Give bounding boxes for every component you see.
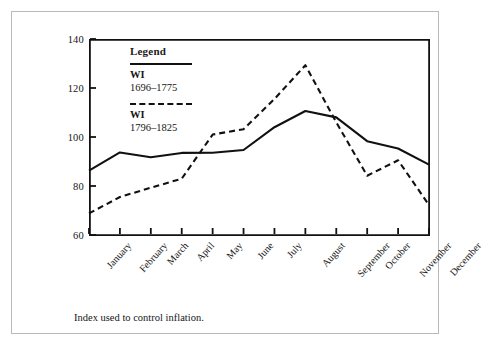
- x-tick-label: August: [320, 240, 348, 269]
- legend-series-range: 1696–1775: [130, 81, 210, 94]
- x-tick-label: March: [164, 240, 190, 267]
- x-tick-label: April: [194, 240, 216, 263]
- x-tick-label: May: [224, 240, 244, 261]
- y-tick-label: 60: [73, 230, 84, 241]
- legend-series-name: WI: [130, 108, 210, 121]
- y-tick-label: 120: [68, 83, 84, 94]
- y-axis-tick-labels: 6080100120140: [60, 39, 84, 236]
- x-tick-label: February: [137, 240, 169, 274]
- legend-swatch-dashed: [130, 103, 192, 105]
- legend-swatch-solid: [130, 63, 192, 65]
- x-tick-label: January: [104, 240, 133, 270]
- x-tick-label: December: [448, 240, 483, 278]
- legend-entries: WI1696–1775WI1796–1825: [130, 63, 210, 135]
- x-tick-label: June: [255, 240, 275, 261]
- y-axis-ticks: [90, 39, 96, 235]
- figure-frame: Daily Wage Index (Mean Daily Wage/Mean A…: [11, 11, 439, 334]
- legend-title: Legend: [130, 45, 210, 57]
- legend-entry-label: WI1796–1825: [130, 108, 210, 134]
- legend-series-name: WI: [130, 68, 210, 81]
- legend-series-range: 1796–1825: [130, 121, 210, 134]
- y-tick-label: 140: [68, 34, 84, 45]
- x-tick-label: July: [285, 240, 304, 260]
- chart-legend: Legend WI1696–1775WI1796–1825: [130, 45, 210, 144]
- y-tick-label: 100: [68, 132, 84, 143]
- figure-caption: Index used to control inflation.: [74, 312, 204, 323]
- x-tick-label: November: [417, 240, 453, 279]
- legend-entry-2: WI1796–1825: [130, 103, 210, 134]
- x-axis-tick-labels: JanuaryFebruaryMarchAprilMayJuneJulyAugu…: [89, 240, 430, 302]
- x-axis-ticks: [89, 228, 429, 234]
- y-tick-label: 80: [73, 181, 84, 192]
- legend-entry-label: WI1696–1775: [130, 68, 210, 94]
- legend-entry-1: WI1696–1775: [130, 63, 210, 94]
- y-axis-title: Daily Wage Index (Mean Daily Wage/Mean A…: [6, 0, 50, 39]
